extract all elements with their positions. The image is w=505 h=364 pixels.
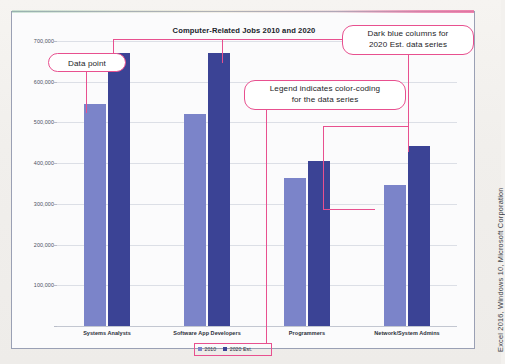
x-axis-line bbox=[57, 326, 457, 327]
x-axis-label-network-system-admins: Network/System Admins bbox=[357, 330, 457, 336]
credit-container: Excel 2016, Windows 10, Microsoft Corpor… bbox=[486, 0, 500, 364]
bar-2010-software-app-developers[interactable] bbox=[184, 114, 206, 326]
y-axis-tick-label: 200,000 bbox=[14, 242, 54, 248]
legend-highlight-box bbox=[194, 343, 272, 356]
y-axis-tick-label: 500,000 bbox=[14, 119, 54, 125]
x-axis-label-systems-analysts: Systems Analysts bbox=[57, 330, 157, 336]
bar-2010-programmers[interactable] bbox=[284, 178, 306, 326]
x-axis-label-programmers: Programmers bbox=[257, 330, 357, 336]
bar-2020-est--systems-analysts[interactable] bbox=[108, 53, 130, 326]
y-axis-labels: 700,000600,000500,000400,000300,000200,0… bbox=[12, 41, 54, 326]
x-axis-category-labels: Systems AnalystsSoftware App DevelopersP… bbox=[57, 330, 457, 342]
callout-dark-blue-columns: Dark blue columns for 2020 Est. data ser… bbox=[342, 25, 474, 55]
y-axis-tick-label: 600,000 bbox=[14, 79, 54, 85]
callout-dark-blue-leader-to-group4 bbox=[408, 55, 409, 152]
callout-data-point-leader bbox=[86, 72, 87, 113]
callout-legend-leader-v-mid bbox=[323, 126, 324, 210]
callout-dark-blue-line1: Dark blue columns for bbox=[350, 29, 466, 40]
chart-frame: Computer-Related Jobs 2010 and 2020 700,… bbox=[11, 11, 475, 349]
callout-legend-leader-h-top bbox=[323, 126, 408, 127]
callout-legend-color-coding: Legend indicates color-coding for the da… bbox=[244, 80, 406, 110]
bar-2020-est--programmers[interactable] bbox=[308, 161, 330, 326]
callout-dark-blue-leader-to-group2 bbox=[222, 39, 223, 63]
callout-legend-line1: Legend indicates color-coding bbox=[252, 84, 398, 95]
y-axis-tick-label: 700,000 bbox=[14, 38, 54, 44]
bar-2020-est--network-system-admins[interactable] bbox=[408, 146, 430, 326]
callout-legend-leader-vertical bbox=[266, 110, 267, 343]
callout-dark-blue-line2: 2020 Est. data series bbox=[350, 40, 466, 51]
credit-text: Excel 2016, Windows 10, Microsoft Corpor… bbox=[496, 187, 505, 352]
y-axis-tick-label: 300,000 bbox=[14, 201, 54, 207]
bar-2020-est--software-app-developers[interactable] bbox=[208, 53, 230, 326]
y-axis-tick-label: 400,000 bbox=[14, 160, 54, 166]
bar-2010-network-system-admins[interactable] bbox=[384, 185, 406, 326]
x-axis-label-software-app-developers: Software App Developers bbox=[157, 330, 257, 336]
callout-dark-blue-leader-horizontal bbox=[113, 39, 342, 40]
callout-data-point: Data point bbox=[48, 53, 126, 72]
callout-legend-line2: for the data series bbox=[252, 95, 398, 106]
bar-2010-systems-analysts[interactable] bbox=[84, 104, 106, 326]
callout-legend-leader-h-bottom bbox=[323, 209, 375, 210]
y-axis-tick-label: 100,000 bbox=[14, 282, 54, 288]
